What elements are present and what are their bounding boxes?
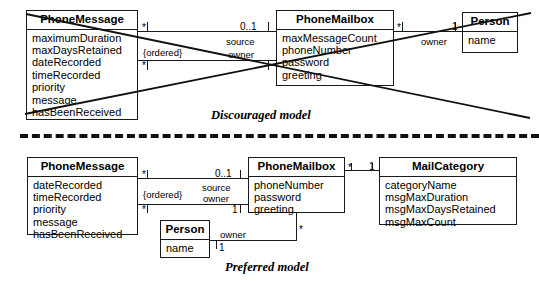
edge-label-source: source — [226, 37, 255, 47]
attribute-item: dateRecorded — [32, 56, 133, 68]
multiplicity-mailbox-star-right: * — [397, 23, 401, 33]
edge-label-owner-person: owner — [421, 37, 447, 47]
assoc-line-b-person-tick — [216, 240, 217, 249]
class-title-person: Person — [463, 13, 517, 32]
assoc-line-b-msg-tick-bottom — [147, 204, 148, 213]
multiplicity-b-person-one: 1 — [219, 243, 225, 253]
class-attributes-phonemailbox: maxMessageCount phoneNumber password gre… — [277, 30, 393, 85]
caption-discouraged-model: Discouraged model — [211, 108, 311, 123]
attribute-item: message — [32, 94, 133, 106]
attribute-item: name — [468, 34, 513, 46]
attribute-item: maximumDuration — [32, 32, 133, 44]
class-box-phonemessage-discouraged[interactable]: PhoneMessage maximumDuration maxDaysReta… — [26, 10, 138, 120]
assoc-line-mailbox-person-tick-left — [402, 22, 403, 31]
attribute-item: maxDaysRetained — [32, 44, 133, 56]
attribute-item: categoryName — [385, 179, 512, 191]
edge-label-owner: owner — [228, 50, 254, 60]
assoc-line-msg-left-tick-bottom — [147, 60, 148, 70]
multiplicity-b-msg-star-top: * — [142, 170, 146, 180]
multiplicity-b-msg-star-bottom: * — [142, 205, 146, 215]
attribute-item: password — [254, 191, 340, 203]
attribute-item: priority — [32, 81, 133, 93]
multiplicity-b-category-one: 1 — [369, 162, 375, 172]
attribute-item: msgMaxDuration — [385, 191, 512, 203]
section-divider — [20, 134, 539, 138]
assoc-line-b-msg-tick-top — [147, 170, 148, 178]
class-attributes-person: name — [463, 32, 517, 49]
class-title-phonemessage: PhoneMessage — [28, 158, 137, 177]
assoc-line-b-person-mailbox-horizontal — [210, 240, 297, 241]
class-title-mailcategory: MailCategory — [380, 158, 516, 177]
assoc-line-msg-mailbox-owner — [138, 60, 276, 61]
attribute-item: hasBeenReceived — [32, 106, 133, 118]
assoc-line-b-mailbox-tick-owner — [240, 204, 241, 213]
uml-diagram-canvas: PhoneMessage maximumDuration maxDaysReta… — [0, 0, 539, 282]
assoc-line-msg-left-tick-top — [147, 22, 148, 31]
attribute-item: priority — [33, 203, 133, 215]
multiplicity-b-mailbox-owner: 1 — [232, 205, 238, 215]
caption-preferred-model: Preferred model — [225, 260, 309, 275]
attribute-item: maxMessageCount — [282, 32, 389, 44]
class-box-phonemailbox-discouraged[interactable]: PhoneMailbox maxMessageCount phoneNumber… — [276, 10, 394, 86]
attribute-item: message — [33, 216, 133, 228]
attribute-item: msgMaxDaysRetained — [385, 203, 512, 215]
class-title-phonemailbox: PhoneMailbox — [277, 11, 393, 30]
class-attributes-phonemailbox: phoneNumber password greeting — [249, 177, 344, 219]
class-attributes-phonemessage: maximumDuration maxDaysRetained dateReco… — [27, 30, 137, 122]
attribute-item: dateRecorded — [33, 179, 133, 191]
class-title-phonemailbox: PhoneMailbox — [249, 158, 344, 177]
multiplicity-b-mailbox-source: 0..1 — [215, 169, 232, 179]
assoc-line-b-mailbox-tick-source — [240, 170, 241, 178]
class-attributes-person: name — [161, 240, 209, 257]
class-title-phonemessage: PhoneMessage — [27, 11, 137, 30]
class-title-person: Person — [161, 221, 209, 240]
attribute-item: timeRecorded — [33, 191, 133, 203]
attribute-item: name — [166, 242, 205, 254]
assoc-line-mailbox-tick-source — [268, 22, 269, 31]
edge-label-b-owner: owner — [203, 194, 229, 204]
attribute-item: hasBeenReceived — [33, 228, 133, 240]
multiplicity-person-one: 1 — [452, 22, 458, 32]
edge-label-ordered: {ordered} — [143, 48, 182, 58]
edge-label-b-source: source — [202, 183, 231, 193]
class-attributes-phonemessage: dateRecorded timeRecorded priority messa… — [28, 177, 137, 244]
assoc-line-mailbox-tick-owner — [268, 60, 269, 70]
edge-label-b-person-owner: owner — [220, 230, 246, 240]
multiplicity-msg-star-bottom: * — [142, 61, 146, 71]
class-box-person-preferred[interactable]: Person name — [160, 220, 210, 258]
attribute-item: phoneNumber — [254, 179, 340, 191]
class-box-phonemessage-preferred[interactable]: PhoneMessage dateRecorded timeRecorded p… — [27, 157, 138, 235]
class-box-phonemailbox-preferred[interactable]: PhoneMailbox phoneNumber password greeti… — [248, 157, 345, 213]
attribute-item: password — [282, 56, 389, 68]
multiplicity-b-mailbox-star-bottom: * — [299, 225, 303, 235]
multiplicity-msg-star-top: * — [142, 23, 146, 33]
class-attributes-mailcategory: categoryName msgMaxDuration msgMaxDaysRe… — [380, 177, 516, 232]
attribute-item: greeting — [282, 69, 389, 81]
attribute-item: greeting — [254, 203, 340, 215]
attribute-item: msgMaxCount — [385, 216, 512, 228]
multiplicity-b-mailbox-star-right: * — [348, 163, 352, 173]
multiplicity-mailbox-source: 0..1 — [240, 22, 257, 32]
class-box-person-discouraged[interactable]: Person name — [462, 12, 518, 53]
attribute-item: phoneNumber — [282, 44, 389, 56]
edge-label-b-ordered: {ordered} — [143, 190, 182, 200]
attribute-item: timeRecorded — [32, 69, 133, 81]
class-box-mailcategory-preferred[interactable]: MailCategory categoryName msgMaxDuration… — [379, 157, 517, 225]
